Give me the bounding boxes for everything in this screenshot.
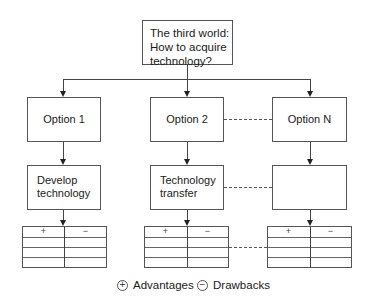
dashed-link-tables [229,247,267,248]
option-n-box: Option N [272,97,347,142]
option-2-label: Option 2 [166,113,208,126]
legend-drawbacks: − Drawbacks [197,279,270,291]
circle-plus-icon: + [117,280,128,291]
drop-approach-2 [187,142,188,159]
drop-approach-1 [63,142,64,159]
plus-header: + [145,226,186,237]
circle-minus-icon: − [197,280,208,291]
approach-1-line-2: technology [37,187,100,200]
minus-header: − [310,226,351,237]
approach-n-box [272,165,347,210]
dashed-link-approaches [224,187,272,188]
approach-2-line-2: transfer [160,187,223,200]
pros-cons-table-n: + − [267,226,352,268]
approach-2-box: Technology transfer [150,165,224,210]
pros-cons-table-2: + − [144,226,229,268]
legend-drawbacks-label: Drawbacks [213,279,270,291]
option-n-label: Option N [288,113,331,126]
legend-advantages-label: Advantages [133,279,194,291]
approach-1-line-1: Develop [37,174,100,187]
plus-header: + [268,226,309,237]
pros-cons-table-1: + − [22,226,107,268]
minus-header: − [187,226,228,237]
legend-advantages: + Advantages [117,279,194,291]
root-line-2: How to acquire [150,40,232,54]
root-question-box: The third world: How to acquire technolo… [142,20,233,65]
approach-1-box: Develop technology [27,165,101,210]
minus-header: − [65,226,106,237]
option-1-label: Option 1 [43,113,85,126]
root-connector [187,64,188,80]
plus-header: + [23,226,64,237]
option-1-box: Option 1 [27,97,101,142]
root-line-3: technology? [150,54,232,68]
dashed-link-options [224,119,272,120]
drop-approach-n [310,142,311,159]
root-line-1: The third world: [150,26,232,40]
option-2-box: Option 2 [150,97,224,142]
approach-2-line-1: Technology [160,174,223,187]
